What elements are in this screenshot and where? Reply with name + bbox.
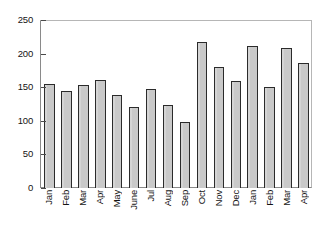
bar-highlight (147, 90, 149, 188)
y-axis-tick-mark (41, 154, 46, 155)
x-axis-tick-label: Aug (163, 190, 173, 206)
bar-highlight (130, 108, 132, 188)
y-axis-tick-label: 0 (28, 182, 33, 193)
bar (163, 105, 174, 188)
x-axis-tick-label: Sep (180, 190, 190, 206)
x-axis-tick-label: Apr (95, 190, 105, 204)
bar (61, 91, 72, 188)
x-axis: JanFebMarAprMayJuneJulAugSepOctNovDecJan… (41, 190, 312, 227)
bar (180, 122, 191, 188)
x-axis-tick-label: Jan (44, 190, 54, 205)
bar (112, 95, 123, 188)
bar-chart: 050100150200250 JanFebMarAprMayJuneJulAu… (0, 0, 324, 227)
y-axis: 050100150200250 (0, 0, 40, 188)
bar (214, 67, 225, 188)
x-axis-tick-label: Oct (197, 190, 207, 204)
y-axis-tick-label: 50 (23, 148, 33, 159)
bar-highlight (215, 68, 217, 188)
bar (146, 89, 157, 188)
bar-highlight (248, 47, 250, 188)
x-axis-tick-label: Apr (299, 190, 309, 204)
bar-highlight (232, 82, 234, 188)
y-axis-tick-mark (41, 188, 46, 189)
bar (298, 63, 309, 188)
x-axis-tick-label: Dec (231, 190, 241, 206)
bar (247, 46, 258, 188)
bar-highlight (96, 81, 98, 188)
y-axis-tick-mark (41, 121, 46, 122)
x-axis-tick-label: Mar (282, 190, 292, 206)
bar-highlight (164, 106, 166, 188)
bar-highlight (45, 85, 47, 188)
bar-highlight (181, 123, 183, 188)
bar (44, 84, 55, 188)
x-axis-tick-label: Jul (146, 190, 156, 202)
bar (264, 87, 275, 188)
bars-container (41, 20, 312, 188)
x-axis-tick-label: Feb (61, 190, 71, 206)
y-axis-tick-label: 250 (18, 14, 33, 25)
bar (95, 80, 106, 188)
bar-highlight (282, 49, 284, 188)
x-axis-tick-label: May (112, 190, 122, 207)
y-axis-tick-label: 100 (18, 115, 33, 126)
bar (281, 48, 292, 188)
bar-highlight (62, 92, 64, 188)
bar-highlight (79, 86, 81, 188)
bar (78, 85, 89, 188)
y-axis-tick-label: 150 (18, 81, 33, 92)
x-axis-tick-label: Jan (248, 190, 258, 205)
x-axis-tick-label: Nov (214, 190, 224, 206)
y-axis-tick-mark (41, 54, 46, 55)
x-axis-tick-label: Feb (265, 190, 275, 206)
y-axis-tick-mark (41, 20, 46, 21)
y-axis-tick-mark (41, 87, 46, 88)
bar (231, 81, 242, 188)
x-axis-tick-label: June (129, 190, 139, 210)
bar-highlight (198, 43, 200, 188)
y-axis-tick-label: 200 (18, 48, 33, 59)
bar-highlight (265, 88, 267, 188)
bar-highlight (299, 64, 301, 188)
bar (197, 42, 208, 188)
x-axis-tick-label: Mar (78, 190, 88, 206)
bar-highlight (113, 96, 115, 188)
bar (129, 107, 140, 188)
